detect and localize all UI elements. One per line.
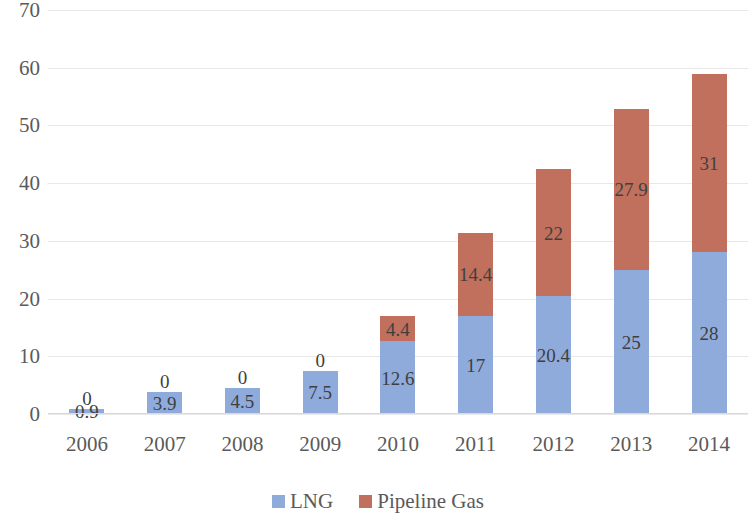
bar-data-label: 4.4 <box>386 319 410 338</box>
stacked-bar[interactable]: 4.412.6 <box>380 316 415 414</box>
bar-data-label: 17 <box>466 355 485 374</box>
x-axis-tick-label: 2007 <box>126 434 203 455</box>
bar-data-label: 3.9 <box>153 393 177 412</box>
legend-swatch-lng <box>272 495 285 508</box>
axis-baseline <box>48 413 748 414</box>
legend-item-label: Pipeline Gas <box>377 491 484 512</box>
x-axis-tick-label: 2008 <box>204 434 281 455</box>
bar-segment-lng[interactable]: 25 <box>614 270 649 414</box>
bar-segment-lng[interactable]: 3.9 <box>147 392 182 415</box>
bar-segment-lng[interactable]: 28 <box>692 252 727 414</box>
y-axis-tick-label: 0 <box>30 404 41 425</box>
x-axis-tick-label: 2011 <box>437 434 514 455</box>
x-axis-tick-label: 2010 <box>359 434 436 455</box>
legend-item[interactable]: Pipeline Gas <box>359 491 484 512</box>
bar-group[interactable]: 07.5 <box>282 10 359 414</box>
stacked-bar[interactable]: 03.9 <box>147 392 182 415</box>
x-axis-tick-label: 2014 <box>671 434 748 455</box>
x-axis-tick-label: 2009 <box>282 434 359 455</box>
bar-group[interactable]: 2220.4 <box>515 10 592 414</box>
gridline <box>48 414 748 415</box>
bar-group[interactable]: 04.5 <box>204 10 281 414</box>
x-axis-tick-label: 2012 <box>515 434 592 455</box>
x-axis: 200620072008200920102011201220132014 <box>48 424 748 464</box>
bar-segment-pipeline-gas[interactable]: 31 <box>692 74 727 253</box>
bar-data-label: 25 <box>622 332 641 351</box>
bar-data-label: 28 <box>700 324 719 343</box>
bar-data-label: 0 <box>160 371 170 390</box>
bar-segment-lng[interactable]: 12.6 <box>380 341 415 414</box>
y-axis-tick-label: 70 <box>19 0 40 21</box>
bar-data-label: 27.9 <box>615 180 648 199</box>
y-axis-tick-label: 10 <box>19 346 40 367</box>
bar-data-label: 22 <box>544 223 563 242</box>
bar-group[interactable]: 3128 <box>671 10 748 414</box>
stacked-bar[interactable]: 14.417 <box>458 233 493 414</box>
bar-data-label: 12.6 <box>381 368 414 387</box>
plot-area: 00.903.904.507.54.412.614.4172220.427.92… <box>48 10 748 414</box>
y-axis-tick-label: 40 <box>19 173 40 194</box>
bar-group[interactable]: 4.412.6 <box>359 10 436 414</box>
legend-swatch-pipeline <box>359 495 372 508</box>
x-axis-tick-label: 2006 <box>48 434 125 455</box>
bar-segment-lng[interactable]: 4.5 <box>225 388 260 414</box>
stacked-bar-chart: 706050403020100 00.903.904.507.54.412.61… <box>0 0 756 524</box>
legend-item-label: LNG <box>290 491 333 512</box>
bar-segment-lng[interactable]: 7.5 <box>303 371 338 414</box>
stacked-bar[interactable]: 27.925 <box>614 109 649 414</box>
y-axis-tick-label: 20 <box>19 288 40 309</box>
bar-series-container: 00.903.904.507.54.412.614.4172220.427.92… <box>48 10 748 414</box>
y-axis-tick-label: 60 <box>19 57 40 78</box>
stacked-bar[interactable]: 07.5 <box>303 371 338 414</box>
bar-segment-pipeline-gas[interactable]: 22 <box>536 169 571 296</box>
bar-data-label: 14.4 <box>459 265 492 284</box>
bar-data-label: 31 <box>700 153 719 172</box>
bar-group[interactable]: 27.925 <box>593 10 670 414</box>
bar-segment-pipeline-gas[interactable]: 4.4 <box>380 316 415 341</box>
y-axis-tick-label: 30 <box>19 230 40 251</box>
bar-data-label: 0 <box>315 350 325 369</box>
bar-group[interactable]: 14.417 <box>437 10 514 414</box>
bar-data-label: 0 <box>238 368 248 387</box>
bar-segment-pipeline-gas[interactable]: 14.4 <box>458 233 493 316</box>
legend-item[interactable]: LNG <box>272 491 333 512</box>
y-axis: 706050403020100 <box>0 0 48 424</box>
x-axis-tick-label: 2013 <box>593 434 670 455</box>
bar-segment-pipeline-gas[interactable]: 27.9 <box>614 109 649 270</box>
stacked-bar[interactable]: 04.5 <box>225 388 260 414</box>
stacked-bar[interactable]: 2220.4 <box>536 169 571 414</box>
y-axis-tick-label: 50 <box>19 115 40 136</box>
bar-segment-lng[interactable]: 20.4 <box>536 296 571 414</box>
bar-segment-lng[interactable]: 17 <box>458 316 493 414</box>
bar-data-label: 7.5 <box>308 383 332 402</box>
bar-group[interactable]: 03.9 <box>126 10 203 414</box>
bar-data-label: 20.4 <box>537 346 570 365</box>
stacked-bar[interactable]: 3128 <box>692 74 727 415</box>
chart-legend: LNGPipeline Gas <box>0 484 756 518</box>
bar-group[interactable]: 00.9 <box>48 10 125 414</box>
bar-data-label: 0.9 <box>75 402 99 421</box>
bar-data-label: 4.5 <box>231 392 255 411</box>
